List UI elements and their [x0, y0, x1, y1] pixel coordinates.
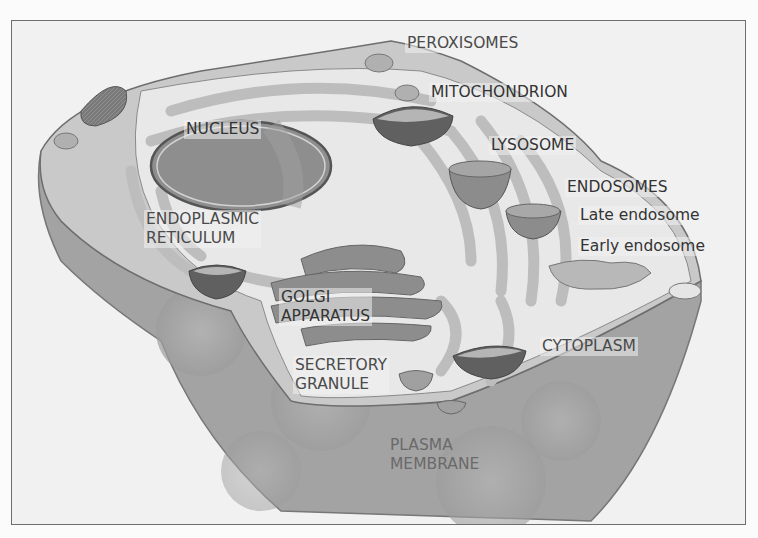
label-late-endosome: Late endosome [578, 206, 702, 225]
label-early-endosome: Early endosome [578, 237, 707, 256]
label-er-line2: RETICULUM [146, 229, 259, 248]
label-golgi-apparatus: GOLGI APPARATUS [279, 288, 372, 326]
label-plasma-line2: MEMBRANE [390, 455, 479, 474]
label-endoplasmic-reticulum: ENDOPLASMIC RETICULUM [144, 210, 261, 248]
label-secretory-granule: SECRETORY GRANULE [293, 356, 389, 394]
label-nucleus: NUCLEUS [184, 120, 261, 139]
label-secretory-line2: GRANULE [295, 375, 387, 394]
label-plasma-line1: PLASMA [390, 436, 479, 455]
label-golgi-line1: GOLGI [281, 288, 370, 307]
vesicle-shape [669, 283, 701, 299]
label-cytoplasm: CYTOPLASM [540, 337, 638, 356]
label-mitochondrion: MITOCHONDRION [429, 83, 570, 102]
label-plasma-membrane: PLASMA MEMBRANE [388, 436, 481, 474]
label-endosomes: ENDOSOMES [565, 178, 670, 197]
cell-illustration [12, 21, 745, 524]
label-golgi-line2: APPARATUS [281, 307, 370, 326]
label-secretory-line1: SECRETORY [295, 356, 387, 375]
label-lysosome: LYSOSOME [489, 136, 576, 155]
diagram-frame: PEROXISOMES MITOCHONDRION NUCLEUS LYSOSO… [11, 20, 746, 525]
label-peroxisomes: PEROXISOMES [405, 34, 520, 53]
label-er-line1: ENDOPLASMIC [146, 210, 259, 229]
